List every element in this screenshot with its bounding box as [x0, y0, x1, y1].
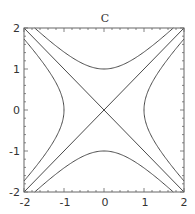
x-tick-label: 2	[181, 196, 188, 209]
y-tick-label: -2	[9, 186, 20, 199]
contour-line-cneg1-lower	[35, 151, 174, 192]
y-axis-labels: 2 1 0 -1 -2	[9, 22, 20, 199]
chart-title: C	[101, 12, 109, 25]
x-axis-labels: -2 -1 0 1 2	[20, 196, 188, 209]
x-tick-label: 0	[102, 196, 109, 209]
y-tick-label: 1	[13, 63, 20, 76]
x-tick-label: 1	[142, 196, 149, 209]
contour-plot: C 2 1 0 -1 -2 -2 -1 0 1 2	[0, 0, 195, 214]
x-tick-label: -2	[20, 196, 31, 209]
x-tick-label: -1	[60, 196, 71, 209]
y-tick-label: 0	[13, 104, 20, 117]
y-tick-label: 2	[13, 22, 20, 35]
contour-lines	[24, 28, 184, 192]
contour-line-c1-left	[24, 39, 64, 181]
y-tick-label: -1	[9, 145, 20, 158]
contour-line-cneg1-upper	[35, 28, 174, 69]
contour-line-c1-right	[144, 39, 184, 181]
